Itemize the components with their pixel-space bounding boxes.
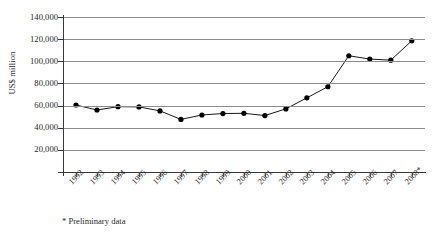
- x-tick-label: 1997: [172, 168, 190, 186]
- x-tick-label: 1998: [193, 168, 211, 186]
- x-tick-label: 2000: [235, 168, 253, 186]
- y-tick-mark: [58, 106, 64, 107]
- y-tick-mark: [58, 39, 64, 40]
- x-tick-mark: [181, 172, 182, 177]
- x-tick-mark: [244, 172, 245, 177]
- x-tick-mark: [286, 172, 287, 177]
- y-tick-mark: [58, 128, 64, 129]
- x-tick-mark: [202, 172, 203, 177]
- x-tick-mark: [118, 172, 119, 177]
- x-tick-label: 1993: [88, 168, 106, 186]
- x-tick-mark: [223, 172, 224, 177]
- y-tick-mark: [58, 150, 64, 151]
- footnote: * Preliminary data: [62, 216, 125, 226]
- x-tick-label: 2005: [340, 168, 358, 186]
- x-axis-tick-labels: 1992199319941995199619971998199920002001…: [0, 0, 436, 242]
- x-tick-label: 1999: [214, 168, 232, 186]
- y-tick-mark: [58, 17, 64, 18]
- x-tick-mark: [391, 172, 392, 177]
- x-tick-mark: [139, 172, 140, 177]
- x-tick-mark: [307, 172, 308, 177]
- x-tick-mark: [412, 172, 413, 177]
- x-tick-label: 2004: [319, 168, 337, 186]
- x-tick-label: 2006: [361, 168, 379, 186]
- x-tick-label: 1995: [130, 168, 148, 186]
- y-tick-mark: [58, 83, 64, 84]
- x-tick-mark: [97, 172, 98, 177]
- x-tick-label: 2007: [382, 168, 400, 186]
- x-tick-label: 1994: [109, 168, 127, 186]
- x-tick-label: 2008*: [403, 165, 424, 186]
- x-tick-label: 1992: [67, 168, 85, 186]
- x-tick-mark: [76, 172, 77, 177]
- x-tick-mark: [370, 172, 371, 177]
- y-tick-mark-zero: [58, 172, 64, 173]
- x-tick-label: 2002: [277, 168, 295, 186]
- chart-figure: US$ million 20,00040,00060,00080,000100,…: [0, 0, 436, 242]
- x-tick-label: 2003: [298, 168, 316, 186]
- x-tick-label: 2001: [256, 168, 274, 186]
- cropped-caption-sliver: [62, 236, 362, 241]
- x-tick-label: 1996: [151, 168, 169, 186]
- y-tick-mark: [58, 61, 64, 62]
- x-tick-mark: [328, 172, 329, 177]
- x-tick-mark: [349, 172, 350, 177]
- x-tick-mark: [160, 172, 161, 177]
- x-tick-mark: [265, 172, 266, 177]
